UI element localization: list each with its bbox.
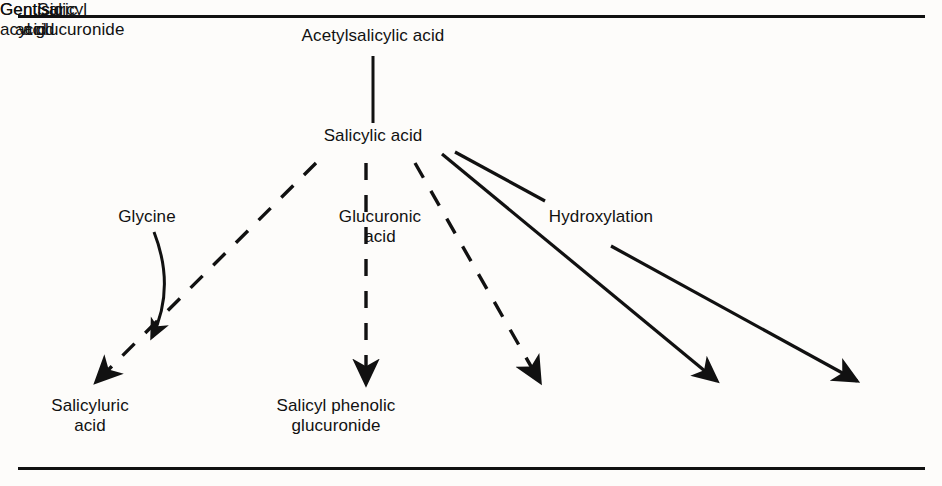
node-gentisuric-acid: Gentisuric acid — [0, 0, 78, 40]
cofactor-hydroxylation: Hydroxylation — [501, 207, 701, 227]
edge-salicylic-to-gentisuric — [611, 246, 857, 381]
edge-salicylic-to-gentisic — [442, 154, 717, 381]
node-salicyluric-acid: Salicyluric acid — [0, 396, 180, 436]
cofactor-glycine: Glycine — [82, 207, 212, 227]
glycine-curved-arrow — [152, 232, 164, 337]
node-salicyl-phenolic-glucuronide: Salicyl phenolic glucuronide — [226, 396, 446, 436]
node-salicylic-acid: Salicylic acid — [258, 126, 488, 146]
cofactor-glucuronic-acid: Glucuronic acid — [305, 207, 455, 247]
metabolic-pathway-figure: Acetylsalicylic acid Salicylic acid Glyc… — [0, 0, 942, 486]
edge-salicylic-to-salicyluric — [96, 163, 316, 382]
edge-salicylic-to-acyl-glucuronide — [415, 163, 540, 382]
node-acetylsalicylic-acid: Acetylsalicylic acid — [233, 26, 513, 46]
